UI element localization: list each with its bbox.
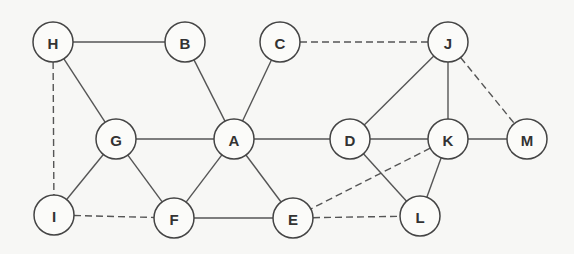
node-label: A <box>229 132 240 149</box>
node-label: M <box>521 132 534 149</box>
node-j: J <box>428 22 468 62</box>
node-label: J <box>444 35 452 52</box>
node-label: B <box>180 35 191 52</box>
node-f: F <box>154 198 194 238</box>
edge-k-l <box>427 158 441 197</box>
node-label: F <box>169 211 178 228</box>
node-label: I <box>52 208 56 225</box>
edge-b-a <box>194 60 225 121</box>
node-b: B <box>165 22 205 62</box>
node-label: L <box>415 209 424 226</box>
edge-g-f <box>128 155 162 202</box>
node-l: L <box>400 196 440 236</box>
edge-j-d <box>364 56 434 125</box>
edge-a-e <box>246 155 281 202</box>
node-m: M <box>507 119 547 159</box>
node-k: K <box>428 119 468 159</box>
edge-h-i <box>53 62 54 195</box>
edge-g-i <box>67 154 104 199</box>
edge-j-m <box>461 58 515 124</box>
edge-c-a <box>243 60 272 121</box>
edge-i-f <box>74 215 154 217</box>
node-a: A <box>214 119 254 159</box>
node-label: H <box>48 35 59 52</box>
node-c: C <box>260 22 300 62</box>
nodes: HBCJGADKMIFEL <box>33 22 547 238</box>
node-label: C <box>275 35 286 52</box>
edge-a-f <box>186 155 222 202</box>
node-label: K <box>443 132 454 149</box>
node-i: I <box>34 195 74 235</box>
edge-h-g <box>64 59 105 122</box>
node-label: E <box>288 211 298 228</box>
edge-e-l <box>313 216 400 217</box>
node-d: D <box>330 119 370 159</box>
node-e: E <box>273 198 313 238</box>
graph-diagram: HBCJGADKMIFEL <box>0 0 574 254</box>
node-label: D <box>345 132 356 149</box>
edge-d-l <box>363 154 406 201</box>
node-g: G <box>96 119 136 159</box>
node-h: H <box>33 22 73 62</box>
node-label: G <box>110 132 122 149</box>
